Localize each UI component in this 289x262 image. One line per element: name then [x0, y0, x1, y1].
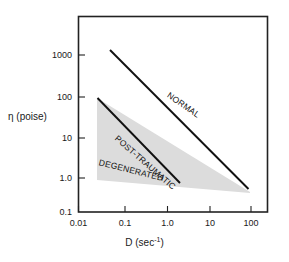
y-axis-ticks — [79, 55, 86, 178]
x-axis-title: D (sec-1) — [0, 236, 289, 248]
x-tick-label-0-01: 0.01 — [70, 219, 88, 228]
y-tick-label-10: 10 — [28, 134, 72, 143]
x-tick-label-100: 100 — [243, 219, 258, 228]
y-axis-title: η (poise) — [8, 112, 47, 122]
x-tick-label-10: 10 — [205, 219, 215, 228]
x-axis-ticks — [79, 206, 252, 212]
x-tick-label-1-0: 1.0 — [161, 219, 174, 228]
y-tick-label-100: 100 — [28, 93, 72, 102]
x-axis-title-base: D (sec — [125, 237, 154, 248]
x-tick-label-0-1: 0.1 — [119, 219, 132, 228]
y-tick-label-0-1: 0.1 — [28, 208, 72, 217]
x-axis-title-close: ) — [160, 237, 163, 248]
y-tick-label-1000: 1000 — [28, 51, 72, 60]
chart-figure: 1000 100 10 1.0 0.1 0.01 0.1 1.0 10 100 … — [0, 0, 289, 262]
y-tick-label-1: 1.0 — [28, 174, 72, 183]
